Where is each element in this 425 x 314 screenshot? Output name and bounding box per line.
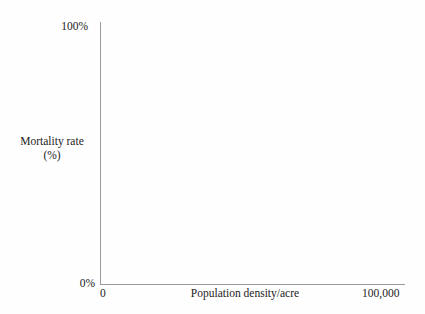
x-axis-title: Population density/acre <box>150 288 340 300</box>
x-axis-tick-label-right: 100,000 <box>362 288 399 300</box>
y-axis-tick-label-bottom: 0% <box>80 278 95 290</box>
y-axis-tick-label-top: 100% <box>61 21 88 33</box>
x-axis-tick-label-left: 0 <box>100 288 106 300</box>
y-axis-title: Mortality rate (%) <box>6 134 98 162</box>
plot-area <box>101 22 405 284</box>
y-axis-line <box>100 22 101 285</box>
y-axis-title-line2: (%) <box>6 148 98 162</box>
y-axis-title-line1: Mortality rate <box>20 135 84 147</box>
x-axis-line <box>100 284 405 285</box>
chart-figure: 100% 0% 0 100,000 Mortality rate (%) Pop… <box>0 0 425 314</box>
